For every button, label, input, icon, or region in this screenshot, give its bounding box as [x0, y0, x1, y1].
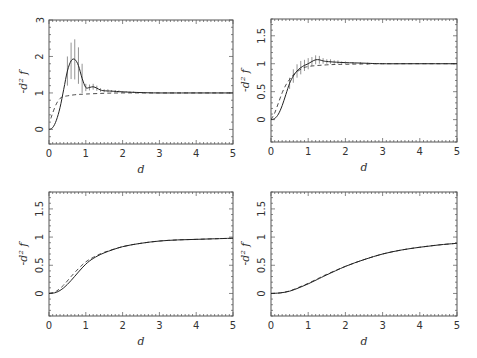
y-tick-label: 0: [257, 116, 268, 122]
x-tick-label: 1: [83, 320, 89, 331]
x-tick-label: 4: [193, 148, 199, 159]
y-tick-label: 1.5: [257, 201, 268, 217]
dashed-curve: [271, 64, 457, 120]
y-tick-label: 1: [35, 234, 46, 240]
x-tick-label: 5: [454, 320, 460, 331]
y-tick-label: 2: [35, 53, 46, 59]
x-tick-label: 0: [46, 148, 52, 159]
x-tick-label: 3: [379, 146, 385, 157]
y-tick-label: 1: [257, 234, 268, 240]
y-tick-label: 0: [35, 126, 46, 132]
y-tick-label: 1.5: [257, 28, 268, 44]
x-tick-label: 5: [454, 146, 460, 157]
x-tick-label: 4: [417, 320, 423, 331]
x-tick-label: 3: [156, 148, 162, 159]
plot-area: [271, 55, 457, 119]
x-tick-label: 0: [268, 146, 274, 157]
x-tick-label: 2: [119, 148, 125, 159]
y-tick-label: 1: [257, 61, 268, 67]
x-tick-label: 4: [193, 320, 199, 331]
y-tick-label: 0.5: [257, 84, 268, 100]
solid-curve: [271, 243, 457, 293]
y-tick-label: 0.5: [257, 257, 268, 273]
x-axis: 012345d: [268, 19, 460, 174]
x-axis-label: d: [360, 335, 367, 348]
axes-frame: [49, 20, 233, 144]
x-tick-label: 3: [379, 320, 385, 331]
x-tick-label: 0: [46, 320, 52, 331]
panel-top-left: 012345d0123-d² f: [17, 17, 237, 176]
dashed-curve: [271, 243, 457, 293]
figure: 012345d0123-d² f 012345d00.511.5-d² f 01…: [0, 0, 477, 358]
axes-frame: [271, 192, 457, 316]
x-tick-label: 1: [305, 146, 311, 157]
y-tick-label: 3: [35, 17, 46, 23]
x-tick-label: 1: [83, 148, 89, 159]
error-bars: [67, 39, 133, 93]
solid-curve: [49, 238, 233, 293]
x-tick-label: 1: [305, 320, 311, 331]
y-tick-label: 0: [35, 290, 46, 296]
y-axis-label: -d² f: [239, 67, 252, 92]
y-axis-label: -d² f: [17, 241, 30, 266]
x-tick-label: 0: [268, 320, 274, 331]
x-tick-label: 3: [156, 320, 162, 331]
x-tick-label: 2: [342, 320, 348, 331]
plot-area: [49, 39, 233, 129]
x-axis-label: d: [360, 161, 367, 174]
axes-frame: [271, 19, 457, 142]
plot-area: [271, 243, 457, 293]
x-axis-label: d: [137, 163, 144, 176]
y-axis-label: -d² f: [17, 69, 30, 94]
x-axis: 012345d: [268, 192, 460, 348]
dashed-curve: [51, 93, 233, 119]
plot-area: [49, 238, 233, 293]
solid-curve: [271, 60, 457, 120]
y-tick-label: 0: [257, 290, 268, 296]
y-axis-label: -d² f: [239, 241, 252, 266]
y-tick-label: 1: [35, 90, 46, 96]
x-tick-label: 4: [417, 146, 423, 157]
x-tick-label: 2: [119, 320, 125, 331]
panel-top-right: 012345d00.511.5-d² f: [239, 19, 461, 174]
panel-bottom-left: 012345d00.511.5-d² f: [17, 192, 237, 348]
panel-bottom-right: 012345d00.511.5-d² f: [239, 192, 461, 348]
error-bars: [290, 55, 368, 89]
axes-frame: [49, 192, 233, 316]
x-axis-label: d: [137, 335, 144, 348]
dashed-curve: [49, 238, 233, 293]
x-axis: 012345d: [46, 192, 236, 348]
x-tick-label: 5: [230, 320, 236, 331]
x-tick-label: 5: [230, 148, 236, 159]
y-tick-label: 1.5: [35, 201, 46, 217]
y-tick-label: 0.5: [35, 257, 46, 273]
solid-curve: [49, 59, 233, 129]
x-tick-label: 2: [342, 146, 348, 157]
